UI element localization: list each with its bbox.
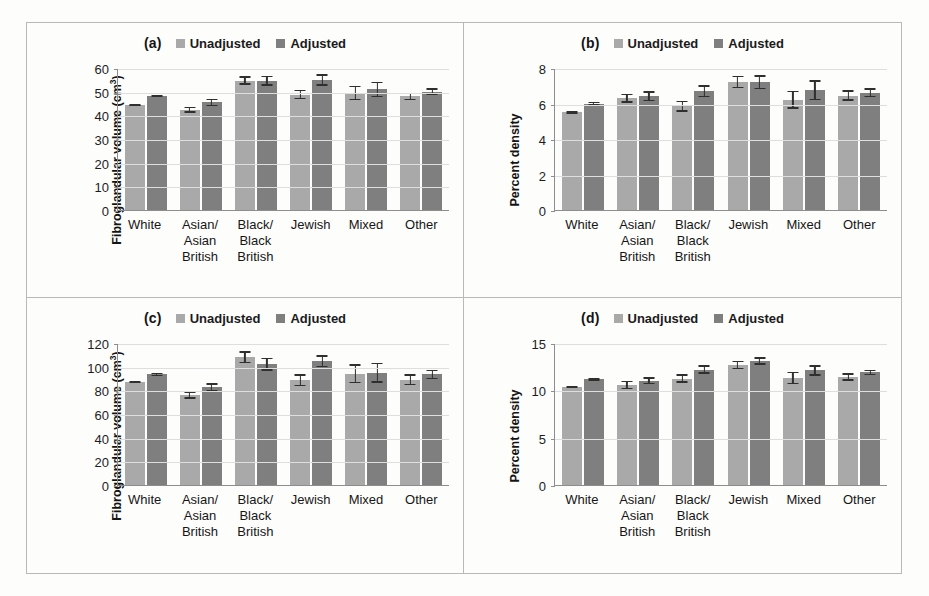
error-bar-cap-bottom <box>588 379 599 380</box>
legend-label-unadjusted: Unadjusted <box>628 36 699 51</box>
error-bar-cap-top <box>350 364 361 365</box>
error-bar <box>865 370 876 376</box>
x-category-label: Mixed <box>338 217 393 265</box>
panel-a-header: (a) Unadjusted Adjusted <box>27 35 463 51</box>
y-tick-mark <box>551 176 555 177</box>
y-tick-label: 5 <box>539 432 546 445</box>
legend-label-unadjusted: Unadjusted <box>190 311 261 326</box>
error-bar-cap-bottom <box>566 112 577 113</box>
y-tick-mark <box>551 211 555 212</box>
error-bar-line <box>792 91 793 109</box>
y-tick-label: 60 <box>95 63 109 76</box>
x-category-label: Jewish <box>283 217 338 265</box>
error-bar <box>405 93 416 100</box>
error-bar-cap-top <box>843 373 854 374</box>
x-category-label: Asian/ Asian British <box>172 492 227 540</box>
bar-fill <box>860 93 880 210</box>
error-bar <box>151 373 162 377</box>
bar-fill <box>345 93 365 210</box>
error-bar <box>732 361 743 370</box>
error-bar-cap-bottom <box>809 374 820 375</box>
x-category-label: Black/ Black British <box>665 217 721 265</box>
gridline <box>118 69 449 70</box>
legend-item-adjusted: Adjusted <box>714 311 784 326</box>
error-bar-cap-top <box>699 85 710 86</box>
bar-adjusted <box>367 89 387 210</box>
error-bar <box>295 90 306 99</box>
x-category-label: Jewish <box>721 492 777 540</box>
error-bar-cap-top <box>865 370 876 371</box>
x-category-label: Other <box>394 492 449 540</box>
bar-adjusted <box>750 361 770 485</box>
error-bar <box>206 99 217 107</box>
legend-swatch-unadjusted-icon <box>614 314 623 323</box>
bar-adjusted <box>694 91 714 210</box>
bar-adjusted <box>639 96 659 210</box>
bar-fill <box>180 395 200 485</box>
gridline <box>118 116 449 117</box>
error-bar-cap-top <box>350 86 361 87</box>
error-bar-cap-top <box>239 76 250 77</box>
y-tick-mark <box>114 164 118 165</box>
bar-fill <box>202 102 222 210</box>
y-tick-label: 0 <box>539 205 546 218</box>
error-bar-cap-top <box>184 107 195 108</box>
error-bar <box>295 374 306 386</box>
y-tick-label: 40 <box>95 432 109 445</box>
error-bar-cap-bottom <box>699 372 710 373</box>
error-bar-cap-top <box>372 82 383 83</box>
legend-label-adjusted: Adjusted <box>290 311 346 326</box>
error-bar <box>699 85 710 97</box>
error-bar-line <box>814 80 815 100</box>
error-bar-cap-bottom <box>295 98 306 99</box>
error-bar <box>317 355 328 367</box>
panel-d: (d) Unadjusted Adjusted Percent density … <box>464 298 901 573</box>
gridline <box>555 105 887 106</box>
y-tick-label: 15 <box>532 338 546 351</box>
legend-item-unadjusted: Unadjusted <box>614 36 699 51</box>
legend-item-unadjusted: Unadjusted <box>176 36 261 51</box>
error-bar <box>754 75 765 88</box>
error-bar <box>865 88 876 97</box>
bar-adjusted <box>202 387 222 485</box>
legend-label-adjusted: Adjusted <box>728 36 784 51</box>
x-category-label: Asian/ Asian British <box>610 492 666 540</box>
error-bar <box>566 386 577 388</box>
legend-swatch-adjusted-icon <box>714 39 723 48</box>
error-bar <box>677 101 688 112</box>
panel-c-y-ticklabels: 020406080100120 <box>79 344 113 486</box>
error-bar-cap-top <box>643 377 654 378</box>
legend-item-unadjusted: Unadjusted <box>176 311 261 326</box>
panel-b-y-ticklabels: 02468 <box>516 69 550 211</box>
error-bar-cap-top <box>317 355 328 356</box>
x-category-label: Black/ Black British <box>665 492 721 540</box>
bar-fill <box>584 104 604 211</box>
panel-c: (c) Unadjusted Adjusted Fibroglandular v… <box>27 298 464 573</box>
error-bar <box>372 363 383 383</box>
panel-a-legend: Unadjusted Adjusted <box>176 36 346 51</box>
error-bar <box>239 76 250 85</box>
x-category-label: Jewish <box>283 492 338 540</box>
y-tick-label: 120 <box>87 338 109 351</box>
bar-fill <box>235 357 255 485</box>
error-bar-cap-bottom <box>261 369 272 370</box>
error-bar-cap-top <box>865 88 876 89</box>
y-tick-label: 50 <box>95 86 109 99</box>
error-bar <box>184 392 195 399</box>
legend-label-unadjusted: Unadjusted <box>190 36 261 51</box>
bar-fill <box>783 378 803 485</box>
gridline <box>118 93 449 94</box>
error-bar-cap-bottom <box>372 96 383 97</box>
error-bar-cap-top <box>809 80 820 81</box>
error-bar-cap-top <box>261 76 272 77</box>
error-bar <box>317 74 328 85</box>
panel-a-y-ticklabels: 0102030405060 <box>79 69 113 211</box>
error-bar-cap-top <box>427 370 438 371</box>
y-tick-label: 8 <box>539 63 546 76</box>
legend-label-unadjusted: Unadjusted <box>628 311 699 326</box>
bar-adjusted <box>584 379 604 485</box>
panel-a-plot-wrap: 0102030405060 WhiteAsian/ Asian BritishB… <box>79 69 449 287</box>
y-tick-label: 100 <box>87 361 109 374</box>
error-bar-cap-bottom <box>732 368 743 369</box>
legend-item-adjusted: Adjusted <box>276 36 346 51</box>
